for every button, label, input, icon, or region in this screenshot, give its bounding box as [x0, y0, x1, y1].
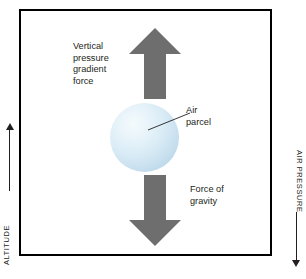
- axis-label-altitude: ALTITUDE: [2, 225, 11, 265]
- air-pressure-arrow-shaft: [296, 212, 297, 264]
- label-vertical-pressure-gradient-force: Vertical pressure gradient force: [73, 41, 109, 87]
- altitude-arrow-head-icon: [6, 123, 14, 130]
- vertical-pressure-gradient-force-arrow: [129, 28, 181, 99]
- label-air-parcel: Air parcel: [186, 105, 211, 128]
- force-balance-diagram: ALTITUDE AIR PRESSURE Vertical pressure …: [0, 0, 306, 279]
- label-force-of-gravity: Force of gravity: [190, 184, 224, 207]
- air-pressure-arrow-head-icon: [292, 260, 300, 267]
- axis-label-air-pressure: AIR PRESSURE: [295, 150, 304, 212]
- altitude-arrow-shaft: [9, 127, 10, 191]
- force-of-gravity-arrow: [129, 175, 181, 246]
